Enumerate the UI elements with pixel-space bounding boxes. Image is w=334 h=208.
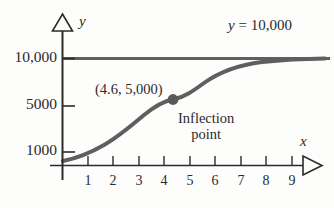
x-tick-label-9: 9: [285, 174, 299, 189]
y-tick-label-10000: 10,000: [0, 49, 57, 65]
chart-figure: y x 10,000 5000 1000 1 2 3 4 5 6 7 8 9 y…: [0, 0, 334, 208]
x-axis-ticks: [88, 156, 292, 166]
y-tick-label-5000: 5000: [0, 96, 57, 112]
x-tick-label-1: 1: [81, 174, 95, 189]
x-tick-label-5: 5: [183, 174, 197, 189]
asymptote-annotation: y = 10,000: [228, 18, 292, 34]
point-coordinate-annotation: (4.6, 5,000): [95, 82, 163, 97]
x-axis-arrowhead-icon: [303, 156, 322, 175]
x-tick-label-4: 4: [157, 174, 171, 189]
y-axis-label: y: [79, 14, 86, 30]
x-tick-label-3: 3: [132, 174, 146, 189]
inflection-annotation-line1: Inflection: [178, 110, 234, 126]
y-tick-label-1000: 1000: [0, 142, 57, 158]
asymptote-equation: = 10,000: [235, 17, 292, 33]
x-tick-label-7: 7: [234, 174, 248, 189]
inflection-point-marker: [168, 94, 179, 105]
y-axis-arrowhead-icon: [53, 14, 73, 31]
x-tick-label-8: 8: [259, 174, 273, 189]
x-axis-label: x: [300, 134, 307, 150]
x-tick-label-6: 6: [208, 174, 222, 189]
y-axis-ticks: [63, 59, 76, 153]
inflection-annotation-line2: point: [178, 126, 234, 142]
x-tick-label-2: 2: [106, 174, 120, 189]
asymptote-variable: y: [228, 17, 235, 33]
inflection-annotation: Inflection point: [178, 110, 234, 142]
